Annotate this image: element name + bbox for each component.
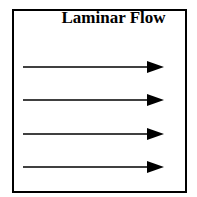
- flow-arrows: [0, 0, 197, 197]
- flow-arrow-4: [23, 161, 164, 173]
- flow-arrow-3: [23, 128, 164, 140]
- flow-arrow-2: [23, 94, 164, 106]
- arrowhead-icon: [147, 61, 164, 73]
- arrowhead-icon: [147, 161, 164, 173]
- arrowhead-icon: [147, 94, 164, 106]
- flow-arrow-1: [23, 61, 164, 73]
- arrowhead-icon: [147, 128, 164, 140]
